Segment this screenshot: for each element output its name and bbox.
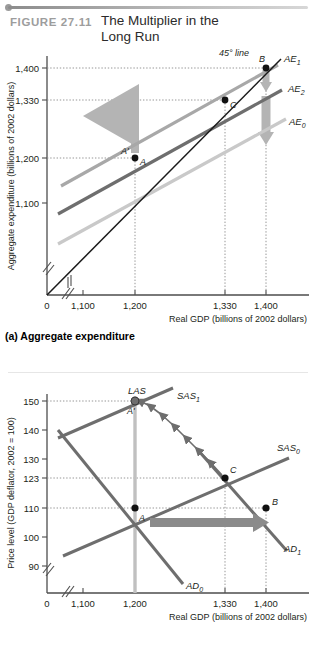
curve-label-ae0: AE0 (288, 116, 306, 129)
point-label-a-b: A (138, 513, 145, 523)
curve-label-ae2: AE2 (287, 83, 305, 96)
x-tick-label-1330-b: 1,330 (213, 598, 237, 609)
x-tick-label-1400: 1,400 (254, 300, 278, 311)
x-tick-label-1100-b: 1,100 (71, 598, 95, 609)
data-point-a-b (131, 504, 138, 511)
x-tick-label-1200: 1,200 (123, 300, 147, 311)
data-point-a-prime-b (131, 397, 139, 405)
curve-label-las: LAS (128, 385, 147, 396)
x-tick-label-0-b: 0 (44, 598, 49, 609)
header-rule (8, 6, 308, 9)
curve-ae2 (58, 90, 282, 214)
panel-divider (8, 372, 308, 373)
y-axis-title-a: Aggregate expenditure (billions of 2002 … (6, 82, 16, 271)
point-label-c-a: C (230, 100, 237, 110)
x-tick-label-1330: 1,330 (213, 300, 237, 311)
point-label-a-a: A (139, 157, 146, 167)
y-tick-label-1200: 1,200 (15, 153, 39, 164)
figure-title: The Multiplier in the Long Run (101, 13, 301, 44)
y-tick-label-130: 130 (23, 454, 39, 465)
data-point-a-a (132, 155, 139, 162)
x-tick-label-0: 0 (44, 300, 49, 311)
curve-label-sas0: SAS0 (277, 442, 300, 455)
curve-label-sas1: SAS1 (177, 390, 200, 403)
curve-ae1 (61, 65, 278, 186)
point-label-b-b: B (272, 497, 278, 507)
y-tick-label-150: 150 (23, 396, 39, 407)
y-tick-label-90: 90 (28, 561, 39, 572)
curve-sas0 (63, 458, 289, 556)
y-tick-label-110: 110 (24, 503, 39, 514)
curve-ad0 (58, 430, 183, 584)
x-tick-label-1400-b: 1,400 (254, 598, 278, 609)
curve-label-ae1: AE1 (283, 53, 301, 66)
x-axis-title-a: Real GDP (billions of 2002 dollars) (169, 314, 307, 324)
axis-break-marks-b (43, 563, 74, 597)
y-ticks-a (42, 68, 47, 203)
x-ticks-b (83, 588, 266, 593)
y-axis-title-b: Price level (GDP deflator, 2002 = 100) (6, 417, 16, 569)
y-tick-label-100: 100 (23, 532, 39, 543)
y-tick-label-140: 140 (23, 425, 39, 436)
point-label-c-b: C (230, 465, 237, 475)
curve-label-45-degree: 45° line (219, 48, 249, 58)
arrow-ad0-to-ad1-right (150, 513, 269, 532)
point-label-b-a: B (259, 54, 265, 64)
point-label-a-prime-b: A' (126, 406, 135, 416)
curve-ae0 (58, 119, 286, 244)
figure-number: FIGURE 27.11 (10, 16, 92, 28)
y-tick-label-1100: 1,100 (15, 198, 39, 209)
curve-sas1 (58, 388, 173, 438)
y-ticks-b (42, 401, 47, 566)
x-ticks-a (83, 290, 266, 295)
chart-aggregate-expenditure: 1,400 1,330 1,200 1,100 0 1,100 1,200 1,… (0, 48, 313, 358)
data-point-b-a (263, 65, 270, 72)
y-tick-label-1330: 1,330 (15, 95, 39, 106)
curve-label-ad0: AD0 (185, 580, 203, 593)
x-tick-label-1100: 1,100 (71, 300, 95, 311)
curve-45-degree-line (47, 59, 281, 295)
x-axis-title-b: Real GDP (billions of 2002 dollars) (169, 612, 307, 622)
curve-label-ad1: AD1 (283, 543, 301, 556)
x-tick-label-1200-b: 1,200 (123, 598, 147, 609)
figure-title-line2: Long Run (101, 29, 160, 44)
point-label-a-prime-a: A' (120, 146, 129, 156)
panel-label-a: (a) Aggregate expenditure (5, 330, 135, 342)
figure-title-line1: The Multiplier in the (101, 13, 219, 28)
data-point-c-b (221, 474, 228, 481)
y-tick-label-123: 123 (23, 473, 39, 484)
data-point-b-b (262, 504, 269, 511)
data-point-c-a (222, 97, 229, 104)
chart-ad-as: 150 140 130 123 110 100 90 0 1,100 1,200… (0, 388, 313, 663)
figure-container: FIGURE 27.11 The Multiplier in the Long … (0, 0, 313, 670)
y-tick-label-1400: 1,400 (15, 63, 39, 74)
